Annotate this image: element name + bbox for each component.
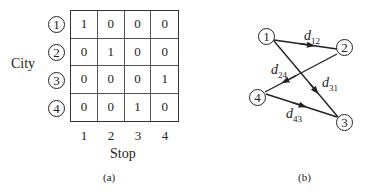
edge-label-d24: d24 xyxy=(271,62,287,80)
node-1: 1 xyxy=(258,28,275,45)
edge-label-d31: d31 xyxy=(322,75,338,93)
caption-b: (b) xyxy=(298,171,311,183)
edge-label-d12: d12 xyxy=(304,28,320,46)
edge-label-d43: d43 xyxy=(286,106,302,124)
node-2: 2 xyxy=(336,39,353,56)
node-3: 3 xyxy=(336,114,353,131)
node-4: 4 xyxy=(249,89,266,106)
